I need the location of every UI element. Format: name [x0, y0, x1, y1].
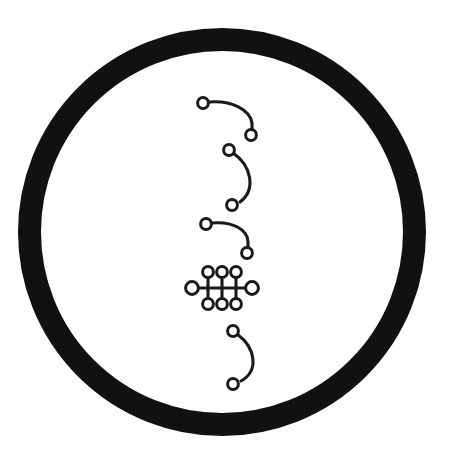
- figure-canvas: [0, 0, 457, 470]
- node-top-3-icon: [231, 267, 242, 278]
- node-start-icon: [228, 326, 239, 337]
- node-start-icon: [198, 98, 209, 109]
- node-bottom-1-icon: [203, 299, 214, 310]
- circular-glyph-figure: [0, 0, 457, 470]
- node-bottom-3-icon: [231, 299, 242, 310]
- node-start-icon: [201, 219, 212, 230]
- node-end-icon: [246, 130, 257, 141]
- node-bar-left-icon: [186, 282, 199, 295]
- background: [0, 0, 457, 470]
- node-end-icon: [242, 248, 253, 259]
- node-bottom-2-icon: [217, 299, 228, 310]
- node-bar-right-icon: [246, 282, 259, 295]
- node-start-icon: [224, 145, 235, 156]
- node-top-1-icon: [203, 267, 214, 278]
- node-end-icon: [227, 200, 238, 211]
- node-top-2-icon: [217, 267, 228, 278]
- node-end-icon: [228, 379, 239, 390]
